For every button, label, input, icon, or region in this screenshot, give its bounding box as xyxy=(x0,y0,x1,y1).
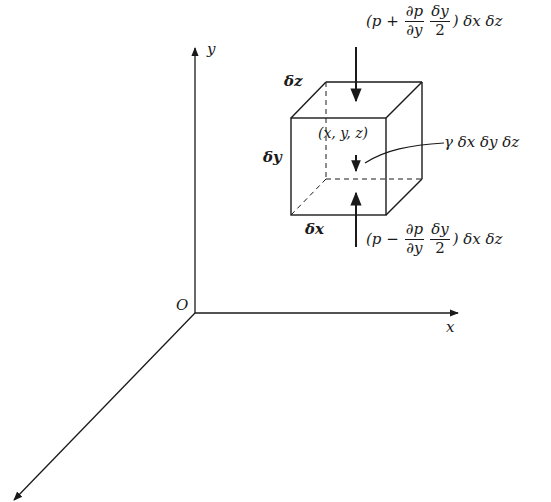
fraction-denominator: 2 xyxy=(430,22,450,39)
weight-label: γ δx δy δz xyxy=(444,135,519,150)
z-axis xyxy=(14,313,195,500)
bottom-force-fraction-dp-dy: ∂p ∂y xyxy=(405,222,424,257)
fraction-numerator: ∂p xyxy=(405,222,424,240)
axes xyxy=(14,48,458,500)
fraction-denominator: ∂y xyxy=(405,22,424,39)
top-force-label: (p + ∂p ∂y δy 2 ) δx δz xyxy=(366,4,505,39)
dz-label: δz xyxy=(284,74,303,89)
origin-label: O xyxy=(176,298,188,313)
y-axis-label: y xyxy=(207,42,215,57)
fraction-numerator: δy xyxy=(430,222,450,240)
x-axis-label: x xyxy=(446,320,454,335)
top-force-fraction-dp-dy: ∂p ∂y xyxy=(405,4,424,39)
bottom-force-fraction-dy-2: δy 2 xyxy=(430,222,450,257)
dx-label: δx xyxy=(305,222,324,237)
fraction-numerator: δy xyxy=(430,4,450,22)
fraction-numerator: ∂p xyxy=(405,4,424,22)
dy-label: δy xyxy=(263,150,282,165)
top-force-close: ) δx δz xyxy=(453,14,503,29)
bottom-force-close: ) δx δz xyxy=(453,232,503,247)
top-force-fraction-dy-2: δy 2 xyxy=(430,4,450,39)
top-force-open: (p + xyxy=(366,14,399,29)
fraction-denominator: 2 xyxy=(430,240,450,257)
weight-leader-line xyxy=(365,143,444,163)
center-coordinates-label: (x, y, z) xyxy=(318,126,368,140)
bottom-force-open: (p − xyxy=(366,232,399,247)
fraction-denominator: ∂y xyxy=(405,240,424,257)
bottom-force-label: (p − ∂p ∂y δy 2 ) δx δz xyxy=(366,222,505,257)
